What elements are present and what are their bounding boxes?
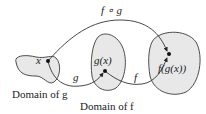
caption-domain-g: Domain of g <box>12 88 68 100</box>
label-x: x <box>35 54 41 66</box>
label-g-arrow: g <box>73 71 79 83</box>
label-fgx: f(g(x)) <box>158 62 186 75</box>
composition-label: f ∘ g <box>101 4 123 16</box>
composition-diagram: f ∘ g x g(x) f(g(x)) g f Domain of g Dom… <box>0 0 206 114</box>
label-gx: g(x) <box>94 54 112 67</box>
point-fgx <box>167 52 171 56</box>
point-gx <box>103 69 107 73</box>
label-f-arrow: f <box>134 71 139 83</box>
point-x <box>46 59 50 63</box>
caption-domain-f: Domain of f <box>80 100 134 112</box>
